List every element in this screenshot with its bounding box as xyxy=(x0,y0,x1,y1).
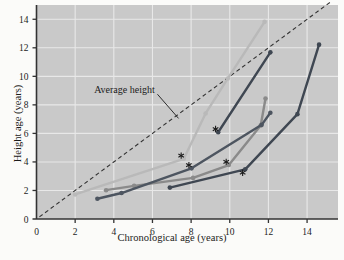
y-tick-label: 4 xyxy=(24,157,29,167)
data-point-patient-5 xyxy=(168,185,173,190)
data-point-patient-2 xyxy=(263,96,268,101)
data-point-patient-4 xyxy=(268,50,273,55)
plot-area-background xyxy=(37,5,339,219)
data-point-patient-1 xyxy=(262,20,267,25)
data-point-patient-2 xyxy=(104,188,109,193)
y-axis-title: Height age (years) xyxy=(12,49,23,199)
plot-background xyxy=(37,5,339,219)
data-point-patient-1 xyxy=(203,111,208,116)
data-point-patient-1 xyxy=(73,192,78,197)
y-tick-label: 14 xyxy=(19,15,29,25)
x-axis-title: Chronological age (years) xyxy=(0,232,344,243)
data-point-patient-3 xyxy=(95,196,100,201)
y-tick-label: 0 xyxy=(24,215,29,225)
data-point-patient-2 xyxy=(191,176,196,181)
data-point-patient-5 xyxy=(295,112,300,117)
average-height-label: Average height xyxy=(94,84,155,95)
y-tick-label: 2 xyxy=(24,186,29,196)
data-point-patient-3 xyxy=(268,110,273,115)
y-tick-label: 6 xyxy=(24,129,29,139)
data-point-patient-1 xyxy=(226,76,231,81)
data-point-patient-3 xyxy=(119,191,124,196)
chart-figure: 0246810121402468101214 Average height Ch… xyxy=(0,0,344,260)
chart-canvas: 0246810121402468101214 Average height xyxy=(0,0,344,260)
y-tick-label: 8 xyxy=(24,100,29,110)
data-point-patient-3 xyxy=(259,123,264,128)
data-point-patient-5 xyxy=(317,42,322,47)
